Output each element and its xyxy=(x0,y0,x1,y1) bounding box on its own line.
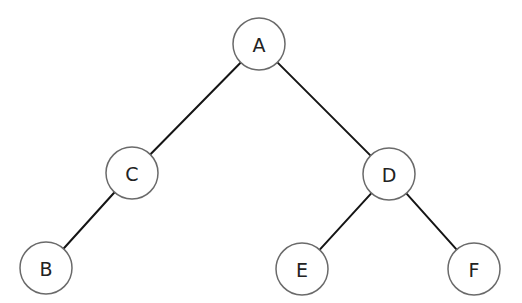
nodes-layer: ACDBEF xyxy=(20,18,500,295)
node-label: C xyxy=(125,163,138,185)
edge-c-b xyxy=(63,192,114,248)
edge-d-f xyxy=(406,193,456,249)
tree-node-b: B xyxy=(20,242,72,294)
node-label: A xyxy=(253,34,266,56)
node-label: F xyxy=(469,259,480,281)
tree-node-f: F xyxy=(448,243,500,295)
tree-node-c: C xyxy=(106,147,158,199)
edge-d-e xyxy=(320,193,372,250)
edge-a-c xyxy=(150,63,241,155)
node-label: B xyxy=(39,258,52,280)
edge-a-d xyxy=(277,62,370,155)
tree-node-a: A xyxy=(233,18,285,70)
node-label: E xyxy=(296,259,308,281)
tree-diagram: ACDBEF xyxy=(0,0,522,303)
tree-node-e: E xyxy=(276,243,328,295)
tree-node-d: D xyxy=(363,148,415,200)
node-label: D xyxy=(382,164,397,186)
